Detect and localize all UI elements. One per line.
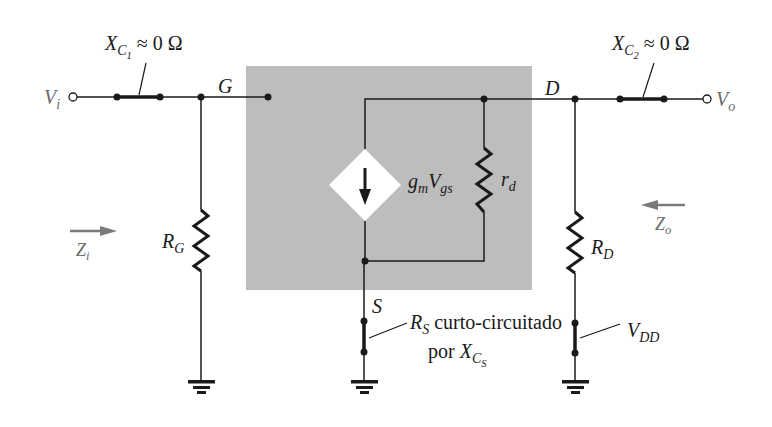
node-vdd-bottom <box>572 350 579 357</box>
r-d-label: rd <box>501 169 516 194</box>
zi-arrow-head-icon <box>100 226 117 236</box>
node-xc1-right <box>157 94 164 101</box>
ground-icon-rg <box>188 380 215 394</box>
ground-icon-source <box>351 380 378 394</box>
xcs-leader <box>369 323 407 338</box>
ground-icon-rd <box>562 380 589 394</box>
xc1-leader <box>139 63 146 95</box>
xc2-label: XC2 ≈ 0 Ω <box>612 33 690 61</box>
rg-resistor <box>194 210 208 271</box>
node-drain-internal <box>481 96 488 103</box>
node-xc2-right <box>661 96 668 103</box>
gm-vgs-label: gmVgs <box>408 171 453 196</box>
node-gate <box>265 94 272 101</box>
node-xcs-top <box>361 318 368 325</box>
node-xc2-left <box>617 96 624 103</box>
source-label: S <box>372 296 382 316</box>
gate-label: G <box>218 76 232 96</box>
vo-terminal <box>703 95 711 103</box>
circuit-figure: Vi Vo XC1 ≈ 0 Ω XC2 ≈ 0 Ω G D S RG RD rd… <box>0 0 772 427</box>
drain-label: D <box>545 78 559 98</box>
node-rg-junction <box>198 94 205 101</box>
xc2-leader <box>643 63 654 97</box>
node-drain <box>572 96 579 103</box>
node-source-internal <box>362 258 369 265</box>
zo-label: Zo <box>655 215 671 237</box>
rg-label: RG <box>162 231 184 256</box>
zo-arrow-head-icon <box>641 200 658 210</box>
node-xc1-left <box>114 94 121 101</box>
vi-terminal <box>69 93 77 101</box>
vdd-leader <box>580 324 620 338</box>
vdd-label: VDD <box>627 320 659 345</box>
vi-label: Vi <box>44 87 60 112</box>
xc1-label: XC1 ≈ 0 Ω <box>105 33 183 61</box>
rs-note-line2: por XCS <box>428 341 486 369</box>
node-vdd-top <box>572 320 579 327</box>
zi-label: Zi <box>76 241 90 263</box>
vo-label: Vo <box>716 89 735 114</box>
rd-label: RD <box>591 237 613 262</box>
node-xcs-bottom <box>361 349 368 356</box>
rs-note-line1: RS curto-circuitado <box>410 312 562 337</box>
rd-resistor <box>568 212 582 273</box>
